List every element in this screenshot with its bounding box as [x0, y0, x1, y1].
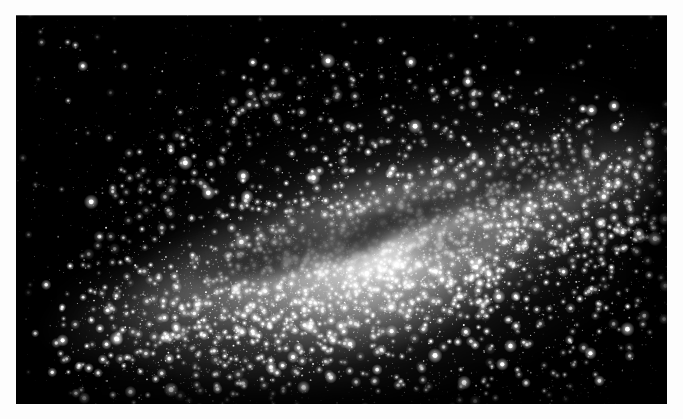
page-canvas	[0, 0, 683, 419]
astrophotograph	[16, 15, 667, 404]
star-field	[16, 15, 667, 404]
